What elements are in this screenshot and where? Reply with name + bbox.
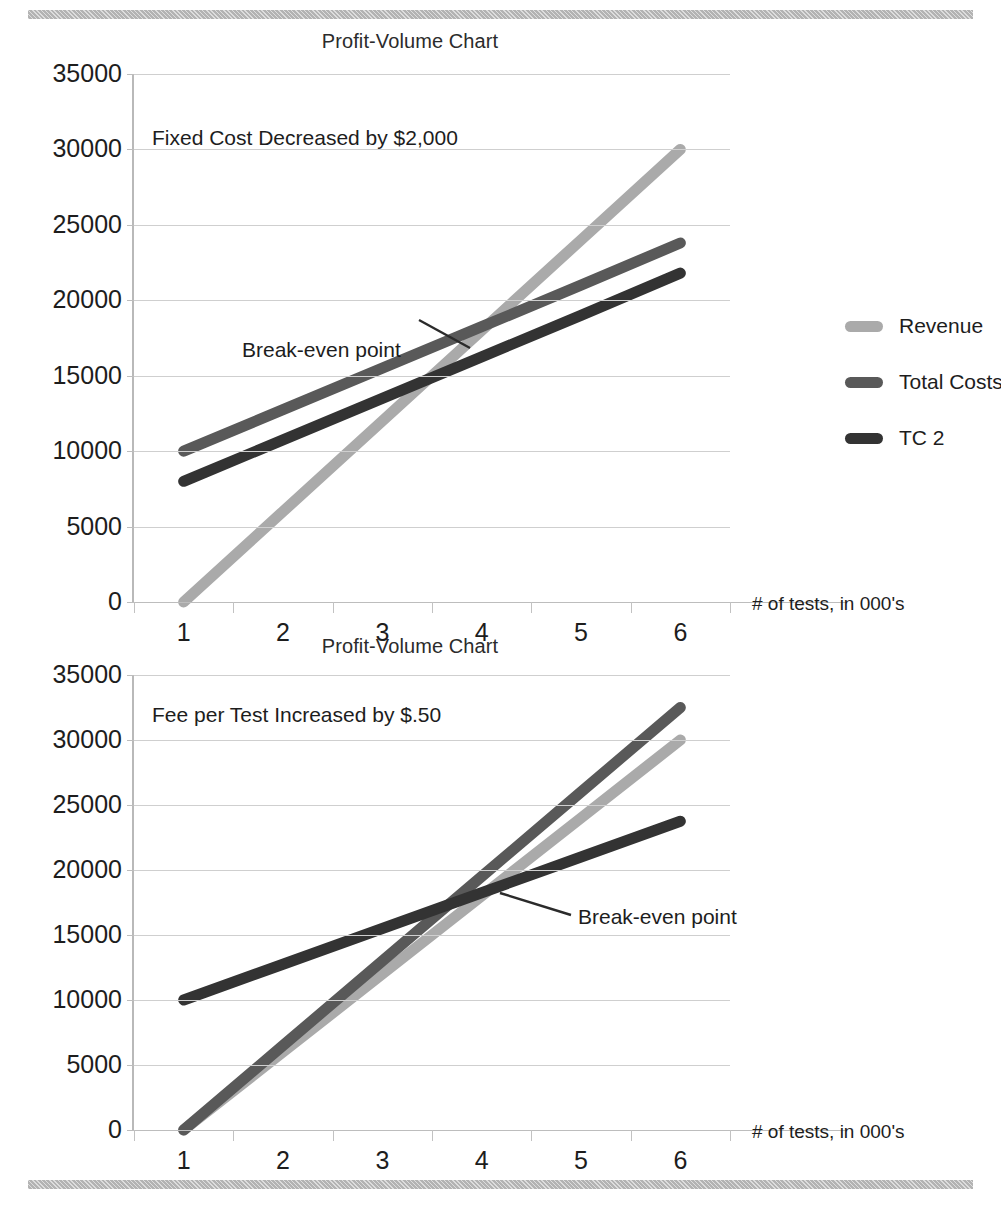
x-tick-mark	[531, 1130, 532, 1141]
x-tick-mark	[631, 602, 632, 613]
y-tick-mark	[127, 225, 134, 226]
y-tick-mark	[127, 935, 134, 936]
gridline	[134, 675, 730, 676]
gridline	[134, 74, 730, 75]
legend-item[interactable]: Total Costs	[845, 354, 1001, 410]
y-tick-mark	[127, 1000, 134, 1001]
gridline	[134, 376, 730, 377]
plot-area: 0500010000150002000025000300003500012345…	[132, 675, 730, 1130]
y-tick-label: 15000	[52, 361, 122, 390]
gridline	[134, 225, 730, 226]
x-tick-mark	[333, 1130, 334, 1141]
gridline	[134, 740, 730, 741]
legend-label: TC 2	[899, 426, 945, 450]
y-tick-label: 0	[108, 1115, 122, 1144]
x-tick-label: 5	[574, 1146, 588, 1175]
gridline	[134, 805, 730, 806]
y-tick-label: 15000	[52, 920, 122, 949]
x-tick-label: 2	[276, 1146, 290, 1175]
y-tick-mark	[127, 1065, 134, 1066]
gridline	[134, 1065, 730, 1066]
x-tick-mark	[631, 1130, 632, 1141]
y-tick-label: 30000	[52, 725, 122, 754]
gridline	[130, 602, 846, 603]
gridline	[134, 300, 730, 301]
series-lines	[134, 675, 730, 1130]
y-tick-mark	[127, 300, 134, 301]
gridline	[134, 935, 730, 936]
gridline	[134, 527, 730, 528]
break-even-callout: Break-even point	[578, 905, 737, 929]
y-tick-label: 35000	[52, 660, 122, 689]
legend-label: Revenue	[899, 314, 983, 338]
y-tick-label: 20000	[52, 855, 122, 884]
gridline	[134, 149, 730, 150]
y-tick-label: 20000	[52, 285, 122, 314]
plot-area: 0500010000150002000025000300003500012345…	[132, 74, 730, 602]
legend-swatch-icon	[845, 377, 883, 388]
x-tick-label: 3	[375, 1146, 389, 1175]
y-tick-label: 5000	[66, 511, 122, 540]
legend-swatch-icon	[845, 433, 883, 444]
chart-title: Profit-Volume Chart	[0, 30, 820, 53]
x-tick-label: 4	[475, 1146, 489, 1175]
x-tick-mark	[233, 602, 234, 613]
gridline	[134, 870, 730, 871]
legend-item[interactable]: TC 2	[845, 410, 1001, 466]
y-tick-label: 5000	[66, 1050, 122, 1079]
bottom-rule	[28, 1180, 973, 1189]
legend-label: Total Costs	[899, 370, 1001, 394]
y-tick-label: 25000	[52, 790, 122, 819]
x-tick-mark	[531, 602, 532, 613]
y-tick-mark	[127, 376, 134, 377]
x-tick-mark	[432, 1130, 433, 1141]
page-root: Profit-Volume Charts Profit-Volume Chart…	[0, 0, 1001, 1213]
x-tick-mark	[134, 602, 135, 613]
top-rule	[28, 10, 973, 19]
y-tick-label: 35000	[52, 59, 122, 88]
x-tick-mark	[730, 1130, 731, 1141]
y-tick-mark	[127, 805, 134, 806]
y-tick-label: 10000	[52, 436, 122, 465]
chart-block-fixed-cost-decreased: Profit-Volume Chart Fixed Cost Decreased…	[0, 30, 1001, 625]
chart-legend: Revenue Total Costs TC 2	[845, 298, 1001, 466]
y-tick-mark	[127, 1130, 134, 1131]
legend-swatch-icon	[845, 321, 883, 332]
x-tick-mark	[432, 602, 433, 613]
gridline	[130, 1130, 846, 1131]
y-tick-mark	[127, 870, 134, 871]
chart-title: Profit-Volume Chart	[0, 635, 820, 658]
x-tick-mark	[730, 602, 731, 613]
series-line	[184, 273, 681, 481]
y-tick-mark	[127, 149, 134, 150]
y-tick-mark	[127, 602, 134, 603]
y-tick-mark	[127, 675, 134, 676]
x-tick-label: 1	[177, 1146, 191, 1175]
y-tick-mark	[127, 740, 134, 741]
y-tick-label: 0	[108, 587, 122, 616]
gridline	[134, 451, 730, 452]
x-tick-mark	[233, 1130, 234, 1141]
x-axis-title: # of tests, in 000's	[752, 1121, 905, 1143]
x-axis-title: # of tests, in 000's	[752, 593, 905, 615]
y-tick-label: 30000	[52, 134, 122, 163]
x-tick-mark	[134, 1130, 135, 1141]
y-tick-mark	[127, 527, 134, 528]
y-tick-mark	[127, 74, 134, 75]
legend-item[interactable]: Revenue	[845, 298, 1001, 354]
series-lines	[134, 74, 730, 602]
y-tick-label: 10000	[52, 985, 122, 1014]
y-tick-label: 25000	[52, 210, 122, 239]
chart-block-fee-increased: Profit-Volume Chart Fee per Test Increas…	[0, 635, 1001, 1180]
y-tick-mark	[127, 451, 134, 452]
break-even-callout: Break-even point	[242, 338, 401, 362]
x-tick-label: 6	[673, 1146, 687, 1175]
gridline	[134, 1000, 730, 1001]
x-tick-mark	[333, 602, 334, 613]
